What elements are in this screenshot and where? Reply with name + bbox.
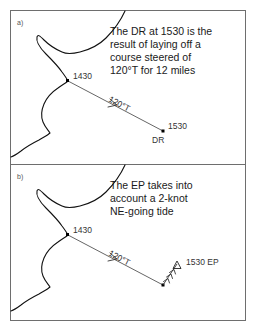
dr-marker-panel-a xyxy=(162,130,165,133)
note-line-b-1: account a 2-knot xyxy=(110,192,188,204)
fix-marker-1430-panel-b xyxy=(66,233,69,236)
panel-a-tag: a) xyxy=(17,19,23,27)
note-line-a-0: The DR at 1530 is the xyxy=(110,25,212,37)
panel-b: b) 1430 120°T 1530 EP The EP takes xyxy=(11,165,219,311)
coastline-panel-a xyxy=(11,11,125,157)
course-label-panel-b: 120°T xyxy=(107,248,132,267)
course-label-panel-a: 120°T xyxy=(107,94,132,113)
fix-label-1430-panel-a: 1430 xyxy=(73,71,92,81)
note-line-a-3: 120°T for 12 miles xyxy=(110,64,195,76)
note-line-b-0: The EP takes into xyxy=(110,179,193,191)
dr-time-label-panel-a: 1530 xyxy=(168,121,187,131)
note-line-a-2: course steered of xyxy=(110,51,191,63)
dr-type-label-panel-a: DR xyxy=(152,135,164,145)
diagram-canvas: a) 1430 120°T 1530 DR The DR at 1530 is … xyxy=(0,0,256,331)
fix-marker-1430-panel-a xyxy=(66,79,69,82)
coastline-panel-b xyxy=(11,165,125,311)
navigation-diagram-figure: a) 1430 120°T 1530 DR The DR at 1530 is … xyxy=(0,0,256,331)
fix-label-1430-panel-b: 1430 xyxy=(73,225,92,235)
note-line-b-2: NE-going tide xyxy=(110,205,174,217)
note-line-a-1: result of laying off a xyxy=(110,38,201,50)
panel-b-tag: b) xyxy=(17,173,23,181)
panel-a: a) 1430 120°T 1530 DR The DR at 1530 is … xyxy=(11,11,212,157)
ep-label-panel-b: 1530 EP xyxy=(186,257,219,267)
